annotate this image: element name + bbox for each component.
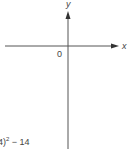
x-axis-arrow-icon xyxy=(111,44,119,49)
origin-label: 0 xyxy=(57,50,62,59)
x-axis-label: x xyxy=(122,42,127,51)
y-axis-arrow-icon xyxy=(66,11,71,19)
y-axis-label: y xyxy=(66,0,71,9)
equation-suffix: − 14 xyxy=(9,137,29,147)
coordinate-axes xyxy=(0,0,128,149)
equation-fragment: 4)2 − 14 xyxy=(0,136,30,147)
